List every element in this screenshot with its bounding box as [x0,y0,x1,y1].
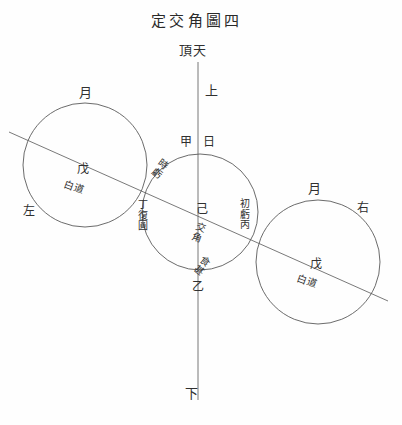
moon-left-label: 月 [79,86,93,99]
left-label: 左 [23,205,35,217]
moon-right-point-label: 戊 [310,258,322,270]
zenith-label: 頂天 [179,44,206,57]
moon-left-point-label: 戊 [77,163,89,175]
sun-center-point-label: 己 [196,203,208,215]
sun-label: 日 [203,136,215,148]
diagram-title: 定交角圖四 [151,14,243,29]
up-label: 上 [205,84,219,97]
sun-top-point-label: 甲 [180,136,192,148]
eclipse-intersection-angle-diagram: 定交角圖四 頂天 上 下 左 右 月 戊 白道 月 戊 白道 甲 日 乙 己 交… [0,0,402,425]
last-contact-label: 丁復圓 [136,199,147,231]
moon-right-label: 月 [308,182,322,195]
right-label: 右 [357,202,369,214]
first-contact-label: 初虧丙 [238,198,249,230]
sun-bottom-point-label: 乙 [192,281,204,293]
down-label: 下 [185,387,199,400]
